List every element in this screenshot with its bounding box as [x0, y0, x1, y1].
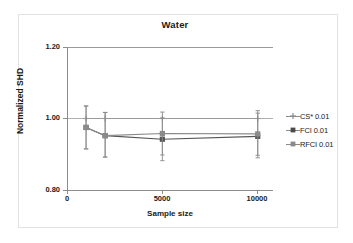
- x-axis-line: [67, 190, 273, 191]
- y-tick-label-080: 0.80: [26, 185, 60, 194]
- y-tick-mark-120: [63, 47, 67, 48]
- x-tick-label-10000: 10000: [232, 194, 282, 203]
- chart-title: Water: [60, 19, 290, 30]
- legend-item-cs[interactable]: CS* 0.01: [286, 110, 350, 123]
- y-tick-label-100: 1.00: [26, 113, 60, 122]
- x-tick-label-5000: 5000: [137, 194, 187, 203]
- legend-label-cs: CS* 0.01: [300, 112, 329, 121]
- gridline-120: [67, 47, 273, 48]
- y-axis-line: [67, 47, 68, 190]
- legend-marker-square-gray-icon: [286, 140, 300, 149]
- gridline-100: [67, 118, 273, 119]
- legend-label-rfci: RFCI 0.01: [300, 140, 333, 149]
- chart-figure: Water 1.20 1.00 0.80 0 5000 10000 Normal…: [0, 0, 353, 243]
- x-axis-title: Sample size: [67, 209, 273, 218]
- legend-marker-plus-icon: [286, 112, 300, 121]
- y-axis-title: Normalized SHD: [15, 41, 25, 161]
- y-tick-mark-100: [63, 118, 67, 119]
- x-tick-label-0: 0: [42, 194, 92, 203]
- legend-label-fci: FCI 0.01: [300, 126, 328, 135]
- legend-marker-square-dark-icon: [286, 126, 300, 135]
- legend-item-fci[interactable]: FCI 0.01: [286, 124, 350, 137]
- chart-legend: CS* 0.01 FCI 0.01 RFCI 0.01: [286, 110, 350, 152]
- y-tick-label-120: 1.20: [26, 42, 60, 51]
- legend-item-rfci[interactable]: RFCI 0.01: [286, 138, 350, 151]
